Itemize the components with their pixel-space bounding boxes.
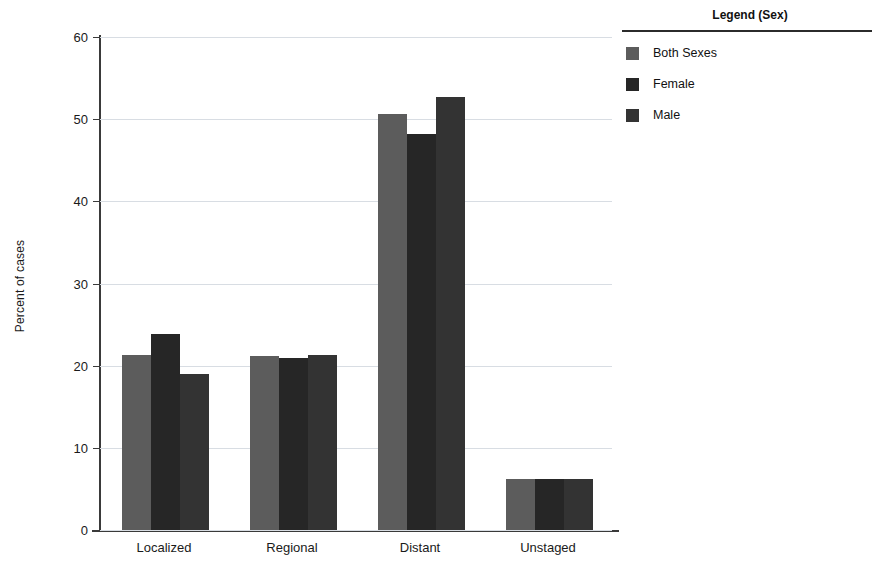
bar[interactable] [378,114,407,530]
bar[interactable] [535,479,564,530]
bar[interactable] [436,97,465,530]
bar[interactable] [151,334,180,530]
x-axis-category-label: Distant [356,540,484,555]
y-axis-tick [93,366,100,367]
y-axis-tick [93,448,100,449]
bar[interactable] [250,356,279,530]
bar-group [122,37,209,530]
legend-items: Both SexesFemaleMale [622,46,872,122]
y-axis-tick-label: 30 [30,276,88,291]
legend-item[interactable]: Male [622,108,872,122]
y-axis-title-label: Percent of cases [13,240,27,333]
y-axis-tick-label: 40 [30,194,88,209]
bar[interactable] [564,479,593,530]
chart-page: Percent of cases 0102030405060 Localized… [0,0,894,572]
bar-group [378,37,465,530]
legend-item-label: Female [653,77,695,91]
x-axis-category-label: Localized [100,540,228,555]
bar-group [506,37,593,530]
bar[interactable] [180,374,209,530]
bar[interactable] [506,479,535,530]
x-axis-category-label: Regional [228,540,356,555]
legend-item[interactable]: Both Sexes [622,46,872,60]
legend-swatch-icon [626,109,639,122]
legend: Legend (Sex) Both SexesFemaleMale [622,8,872,139]
y-axis-tick [93,201,100,202]
plot-area [100,37,612,530]
y-axis-tick-label: 20 [30,358,88,373]
bar[interactable] [279,358,308,530]
y-axis-tick [93,119,100,120]
y-axis-tick-labels: 0102030405060 [26,0,88,572]
legend-swatch-icon [626,78,639,91]
legend-swatch-icon [626,47,639,60]
legend-divider [622,30,872,32]
y-axis-tick-label: 0 [30,523,88,538]
y-axis-tick [93,37,100,38]
y-axis-tick [93,530,100,531]
y-axis-tick-label: 50 [30,112,88,127]
bar[interactable] [122,355,151,530]
y-axis-tick-label: 10 [30,440,88,455]
bar[interactable] [407,134,436,530]
legend-title: Legend (Sex) [622,8,872,22]
legend-item-label: Male [653,108,680,122]
legend-item[interactable]: Female [622,77,872,91]
x-axis-category-label: Unstaged [484,540,612,555]
y-axis-tick-label: 60 [30,30,88,45]
bar-group [250,37,337,530]
legend-item-label: Both Sexes [653,46,717,60]
bar[interactable] [308,355,337,530]
y-axis-tick [93,284,100,285]
gridline [100,530,612,531]
